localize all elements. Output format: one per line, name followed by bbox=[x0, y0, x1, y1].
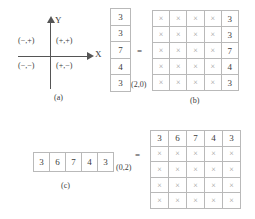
cross-icon: × bbox=[159, 14, 164, 23]
grid-cell-value: 3 bbox=[33, 152, 50, 172]
quadrant-3-label: (−,−) bbox=[18, 61, 34, 70]
cross-icon: × bbox=[211, 149, 216, 158]
grid-cell-value: 3 bbox=[221, 26, 239, 43]
row-vector-index-label: (0,2) bbox=[116, 163, 131, 172]
cross-icon: × bbox=[159, 62, 164, 71]
grid-cell-empty: × bbox=[168, 146, 187, 163]
grid-cell-empty: × bbox=[186, 161, 205, 178]
cross-icon: × bbox=[157, 165, 162, 174]
quadrant-4-label: (+,−) bbox=[56, 61, 72, 70]
cross-icon: × bbox=[193, 30, 198, 39]
grid-cell-empty: × bbox=[169, 58, 187, 75]
cross-icon: × bbox=[229, 149, 234, 158]
grid-row: ××××× bbox=[150, 178, 241, 194]
cross-icon: × bbox=[210, 14, 215, 23]
cross-icon: × bbox=[157, 149, 162, 158]
grid-cell-value: 6 bbox=[168, 130, 187, 147]
x-axis-line bbox=[18, 56, 88, 57]
panel-c-caption: (c) bbox=[61, 181, 70, 190]
grid-cell-empty: × bbox=[222, 192, 241, 209]
cross-icon: × bbox=[176, 30, 181, 39]
grid-cell-empty: × bbox=[204, 161, 223, 178]
grid-cell-value: 3 bbox=[150, 130, 169, 147]
quadrant-2-label: (−,+) bbox=[18, 36, 34, 45]
grid-cell-empty: × bbox=[186, 58, 204, 75]
quadrant-1-label: (+,+) bbox=[56, 36, 72, 45]
x-axis-label: X bbox=[95, 49, 102, 59]
grid-row: ××××7 bbox=[152, 43, 239, 59]
grid-cell-empty: × bbox=[150, 192, 169, 209]
grid-row: ××××× bbox=[150, 147, 241, 163]
cross-icon: × bbox=[210, 30, 215, 39]
cross-icon: × bbox=[210, 78, 215, 87]
grid-cell-empty: × bbox=[152, 26, 170, 43]
grid-row: ××××× bbox=[150, 193, 241, 209]
grid-cell-value: 6 bbox=[49, 152, 66, 172]
cross-icon: × bbox=[175, 196, 180, 205]
grid-cell-empty: × bbox=[204, 26, 222, 43]
grid-cell-empty: × bbox=[204, 74, 222, 91]
cross-icon: × bbox=[159, 46, 164, 55]
cross-icon: × bbox=[210, 46, 215, 55]
grid-cell-empty: × bbox=[152, 10, 170, 27]
panel-b-caption: (b) bbox=[190, 96, 199, 105]
cross-icon: × bbox=[193, 14, 198, 23]
grid-cell-empty: × bbox=[168, 161, 187, 178]
grid-cell-empty: × bbox=[204, 146, 223, 163]
cross-icon: × bbox=[193, 46, 198, 55]
cross-icon: × bbox=[159, 78, 164, 87]
cross-icon: × bbox=[229, 196, 234, 205]
cross-icon: × bbox=[210, 62, 215, 71]
grid-cell-empty: × bbox=[152, 42, 170, 59]
grid-cell-value: 3 bbox=[110, 25, 131, 43]
y-axis-label: Y bbox=[55, 15, 62, 25]
cross-icon: × bbox=[157, 196, 162, 205]
grid-cell-value: 3 bbox=[221, 74, 239, 91]
cross-icon: × bbox=[193, 165, 198, 174]
cross-icon: × bbox=[175, 181, 180, 190]
grid-cell-empty: × bbox=[169, 42, 187, 59]
cross-icon: × bbox=[176, 78, 181, 87]
cross-icon: × bbox=[229, 181, 234, 190]
grid-d: 36743×××××××××××××××××××× bbox=[150, 130, 241, 209]
row-vector: 36743 bbox=[33, 152, 114, 172]
grid-cell-value: 7 bbox=[110, 41, 131, 59]
cross-icon: × bbox=[176, 14, 181, 23]
panel-a-coordinate-diagram: Y X (−,+) (+,+) (−,−) (+,−) (a) bbox=[0, 0, 128, 110]
cross-icon: × bbox=[159, 30, 164, 39]
grid-cell-empty: × bbox=[150, 146, 169, 163]
grid-cell-value: 3 bbox=[222, 130, 241, 147]
grid-cell-value: 4 bbox=[221, 58, 239, 75]
cross-icon: × bbox=[193, 149, 198, 158]
x-axis-arrow-icon bbox=[87, 52, 94, 60]
grid-row: 36743 bbox=[150, 130, 241, 147]
cross-icon: × bbox=[193, 181, 198, 190]
grid-cell-empty: × bbox=[204, 177, 223, 194]
cross-icon: × bbox=[176, 46, 181, 55]
equals-sign-c: = bbox=[135, 150, 140, 160]
grid-cell-empty: × bbox=[186, 177, 205, 194]
column-vector: 33743 bbox=[110, 8, 131, 92]
column-vector-index-label: (2,0) bbox=[131, 80, 146, 89]
grid-cell-value: 7 bbox=[186, 130, 205, 147]
cross-icon: × bbox=[193, 62, 198, 71]
grid-cell-value: 7 bbox=[221, 42, 239, 59]
cross-icon: × bbox=[229, 165, 234, 174]
grid-cell-value: 3 bbox=[110, 74, 131, 92]
grid-cell-empty: × bbox=[186, 26, 204, 43]
grid-cell-empty: × bbox=[150, 161, 169, 178]
grid-cell-value: 3 bbox=[110, 8, 131, 26]
panel-a-caption: (a) bbox=[54, 93, 63, 102]
grid-cell-empty: × bbox=[204, 192, 223, 209]
cross-icon: × bbox=[157, 181, 162, 190]
cross-icon: × bbox=[176, 62, 181, 71]
grid-cell-empty: × bbox=[169, 74, 187, 91]
cross-icon: × bbox=[193, 196, 198, 205]
grid-cell-empty: × bbox=[186, 74, 204, 91]
grid-row: ××××3 bbox=[152, 10, 239, 27]
grid-cell-value: 4 bbox=[110, 58, 131, 76]
grid-cell-empty: × bbox=[204, 42, 222, 59]
cross-icon: × bbox=[175, 165, 180, 174]
grid-cell-value: 4 bbox=[204, 130, 223, 147]
grid-row: ××××3 bbox=[152, 75, 239, 91]
